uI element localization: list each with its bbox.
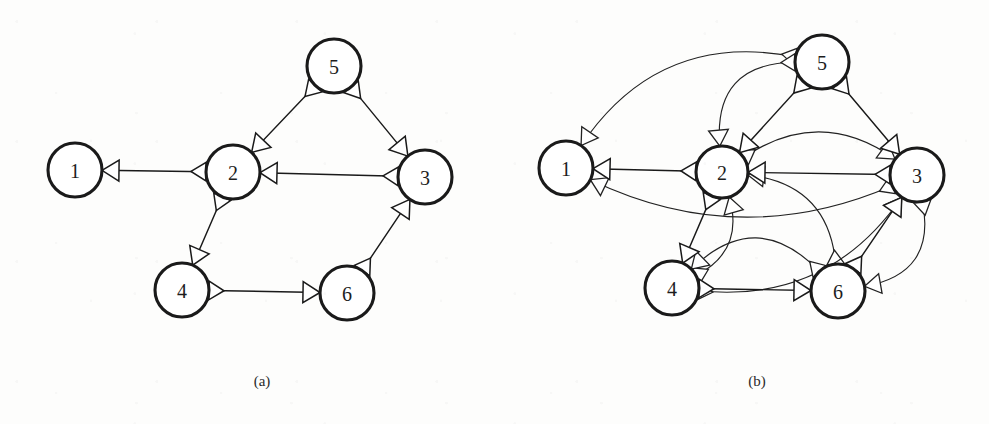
edge-3-to-2	[748, 162, 890, 184]
node-circle-6[interactable]	[811, 264, 865, 318]
arrowhead-into-1	[102, 160, 119, 181]
arrowhead-into-2	[260, 163, 277, 184]
edge-5-to-3	[344, 81, 408, 156]
edge-curve-path	[865, 201, 925, 286]
arrow-tail-at-2	[191, 162, 206, 181]
edge-4-to-6	[699, 279, 811, 301]
edge-2-to-1	[102, 160, 206, 181]
node-5[interactable]: 5	[307, 39, 361, 93]
edge-5-to-2	[252, 79, 322, 152]
node-circle-4[interactable]	[155, 263, 209, 317]
edge-curve-path	[748, 175, 836, 264]
node-circle-2[interactable]	[696, 146, 748, 198]
edge-curved-5-to-2	[709, 54, 796, 146]
arrowhead-into-1	[581, 127, 598, 146]
node-circle-3[interactable]	[398, 150, 452, 204]
node-circle-2[interactable]	[206, 145, 260, 199]
arrow-tail-at-3	[383, 167, 398, 186]
edge-curved-6-to-4	[691, 238, 825, 278]
node-circle-4[interactable]	[645, 261, 699, 315]
arrowhead-into-6	[303, 282, 320, 303]
arrowhead-into-3	[884, 197, 902, 217]
node-circle-5[interactable]	[307, 39, 361, 93]
arrow-tail-at-2	[681, 162, 696, 181]
node-2[interactable]: 2	[206, 145, 260, 199]
arrow-tail-at-4	[209, 281, 224, 300]
arrow-tail-at-3	[875, 165, 890, 184]
arrowhead-into-2	[709, 129, 729, 146]
edge-2-to-4	[190, 193, 231, 265]
graph-canvas: 123456123456 (a)(b)	[0, 0, 989, 424]
node-4[interactable]: 4	[645, 261, 699, 315]
edge-6-to-3	[846, 197, 902, 274]
node-4[interactable]: 4	[155, 263, 209, 317]
captions-layer: (a)(b)	[254, 373, 766, 390]
edge-line	[260, 173, 398, 177]
arrowhead-into-1	[593, 159, 610, 180]
node-circle-6[interactable]	[320, 266, 374, 320]
node-3[interactable]: 3	[398, 150, 452, 204]
nodes-layer: 123456123456	[48, 35, 944, 320]
arrowhead-into-3	[389, 136, 408, 156]
node-circle-5[interactable]	[795, 35, 849, 89]
edge-6-to-3	[354, 199, 410, 275]
caption-panel-a: (a)	[254, 373, 271, 390]
edge-curved-2-to-3	[739, 132, 895, 165]
edge-2-to-1	[593, 159, 696, 181]
arrowhead-into-2	[724, 197, 743, 215]
edge-2-to-4	[680, 192, 721, 263]
caption-panel-b: (b)	[748, 373, 766, 390]
node-2[interactable]: 2	[696, 146, 748, 198]
node-6[interactable]: 6	[811, 264, 865, 318]
figure-root: 123456123456 (a)(b)	[0, 0, 989, 424]
edge-curve-path	[581, 52, 795, 146]
node-5[interactable]: 5	[795, 35, 849, 89]
arrowhead-into-6	[794, 280, 811, 301]
node-circle-3[interactable]	[890, 148, 944, 202]
edge-curved-5-to-1	[581, 48, 797, 145]
node-1[interactable]: 1	[539, 141, 593, 195]
edge-line	[748, 172, 890, 174]
edge-4-to-6	[209, 281, 320, 303]
edge-curved-4-to-2	[692, 197, 743, 283]
node-circle-1[interactable]	[539, 141, 593, 195]
edge-curve-path	[744, 132, 896, 159]
node-circle-1[interactable]	[48, 143, 102, 197]
node-6[interactable]: 6	[320, 266, 374, 320]
edge-5-to-2	[739, 76, 810, 153]
edge-3-to-2	[260, 163, 398, 186]
node-3[interactable]: 3	[890, 148, 944, 202]
arrowhead-into-6	[865, 274, 882, 294]
node-1[interactable]: 1	[48, 143, 102, 197]
arrowhead-into-3	[392, 199, 410, 219]
